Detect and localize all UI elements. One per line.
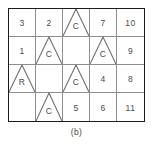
- grid-cell-r1-c2[interactable]: 2: [36, 9, 63, 37]
- grid-cell-label: C: [46, 50, 53, 59]
- grid-cell-r1-c1[interactable]: 3: [9, 9, 36, 37]
- grid-cell-r4-c2[interactable]: C: [36, 93, 63, 121]
- grid-cell-r3-c3[interactable]: C: [63, 65, 90, 93]
- grid-cell-label: 7: [100, 19, 105, 28]
- grid-cell-label: 3: [19, 19, 24, 28]
- grid-cell-label: 6: [100, 104, 105, 113]
- grid-cell-r3-c2[interactable]: [36, 65, 63, 93]
- grid-cell-r4-c3[interactable]: 5: [63, 93, 90, 121]
- grid-cell-label: 4: [100, 75, 105, 84]
- grid-cell-r1-c5[interactable]: 10: [117, 9, 144, 37]
- figure-panel: 32C7101CC9RC48C5611 (b): [0, 0, 153, 144]
- grid-cell-r3-c1[interactable]: R: [9, 65, 36, 93]
- grid-cell-label: 5: [73, 104, 78, 113]
- grid-cell-r2-c5[interactable]: 9: [117, 37, 144, 65]
- grid-cell-label: 11: [126, 104, 136, 113]
- grid-cell-label: 1: [19, 47, 24, 56]
- grid-cell-r2-c3[interactable]: [63, 37, 90, 65]
- grid-cell-label: 9: [128, 47, 133, 56]
- grid-cell-label: R: [19, 78, 26, 87]
- grid-cell-r2-c1[interactable]: 1: [9, 37, 36, 65]
- grid-cell-label: 10: [125, 19, 135, 28]
- grid-cell-label: C: [46, 107, 53, 116]
- grid-cell-label: C: [73, 22, 80, 31]
- grid-cell-label: 2: [46, 19, 51, 28]
- grid-cell-r2-c2[interactable]: C: [36, 37, 63, 65]
- grid-cell-r4-c4[interactable]: 6: [90, 93, 117, 121]
- grid-cell-r3-c4[interactable]: 4: [90, 65, 117, 93]
- grid-cell-label: C: [100, 50, 107, 59]
- grid-cell-r4-c1[interactable]: [9, 93, 36, 121]
- grid-cell-label: 8: [128, 75, 133, 84]
- occupancy-grid: 32C7101CC9RC48C5611: [8, 8, 145, 122]
- grid-cell-label: C: [73, 78, 80, 87]
- grid-cell-r3-c5[interactable]: 8: [117, 65, 144, 93]
- grid-cell-r1-c4[interactable]: 7: [90, 9, 117, 37]
- grid-cell-r4-c5[interactable]: 11: [117, 93, 144, 121]
- figure-caption: (b): [0, 127, 153, 137]
- grid-cell-r1-c3[interactable]: C: [63, 9, 90, 37]
- grid-cell-r2-c4[interactable]: C: [90, 37, 117, 65]
